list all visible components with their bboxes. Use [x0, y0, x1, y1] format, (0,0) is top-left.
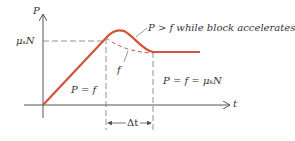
friction-curve [106, 38, 153, 53]
static-level-label: μₛN [16, 35, 35, 46]
kinetic-region-label: P = f = μₖN [163, 75, 222, 86]
f-leader-line [124, 51, 128, 62]
x-axis-label: t [233, 98, 237, 109]
accelerate-note: P > f while block accelerates [148, 22, 295, 33]
interval-label: Δt [127, 117, 138, 128]
friction-curve-label: f [117, 64, 121, 75]
y-axis-label: P [33, 5, 40, 16]
static-region-label: P = f [71, 84, 96, 95]
accelerate-leader-line [136, 28, 147, 37]
applied-force-curve [43, 30, 200, 105]
